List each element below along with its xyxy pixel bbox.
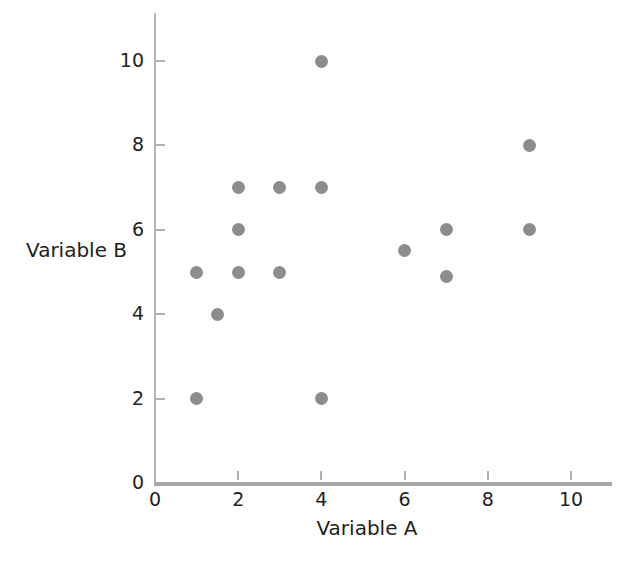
scatter-point: [440, 223, 453, 236]
plot-area: 02468100246810: [0, 0, 639, 569]
x-axis-tick-label: 2: [218, 488, 258, 510]
y-axis-tick: [156, 398, 165, 400]
x-axis-tick-label: 10: [551, 488, 591, 510]
y-axis-tick-label: 4: [104, 302, 144, 324]
x-axis-tick-label: 6: [385, 488, 425, 510]
scatter-point: [232, 223, 245, 236]
y-axis-tick-label: 6: [104, 218, 144, 240]
y-axis-line: [154, 13, 156, 484]
x-axis-tick-label: 8: [468, 488, 508, 510]
x-axis-line: [154, 482, 612, 486]
scatter-point: [523, 223, 536, 236]
scatter-point: [315, 392, 328, 405]
y-axis-tick-label: 8: [104, 133, 144, 155]
y-axis-tick: [156, 229, 165, 231]
y-axis-tick-label: 2: [104, 387, 144, 409]
y-axis-tick: [156, 60, 165, 62]
x-axis-tick: [404, 471, 406, 480]
scatter-plot-figure: 02468100246810 Variable B Variable A: [0, 0, 639, 569]
scatter-point: [315, 181, 328, 194]
x-axis-tick: [320, 471, 322, 480]
x-axis-tick: [237, 471, 239, 480]
y-axis-tick: [156, 144, 165, 146]
scatter-point: [211, 308, 224, 321]
x-axis-tick: [570, 471, 572, 480]
scatter-point: [232, 266, 245, 279]
scatter-point: [523, 139, 536, 152]
scatter-point: [190, 392, 203, 405]
x-axis-label-container: Variable A: [0, 516, 639, 540]
scatter-point: [440, 270, 453, 283]
scatter-point: [398, 244, 411, 257]
x-axis-label: Variable A: [316, 516, 417, 540]
scatter-point: [190, 266, 203, 279]
y-axis-label: Variable B: [26, 238, 127, 262]
x-axis-tick-label: 4: [301, 488, 341, 510]
y-axis-tick: [156, 313, 165, 315]
scatter-point: [273, 181, 286, 194]
scatter-point: [273, 266, 286, 279]
scatter-point: [315, 55, 328, 68]
x-axis-tick-label: 0: [135, 488, 175, 510]
y-axis-tick-label: 10: [104, 49, 144, 71]
x-axis-tick: [487, 471, 489, 480]
scatter-point: [232, 181, 245, 194]
